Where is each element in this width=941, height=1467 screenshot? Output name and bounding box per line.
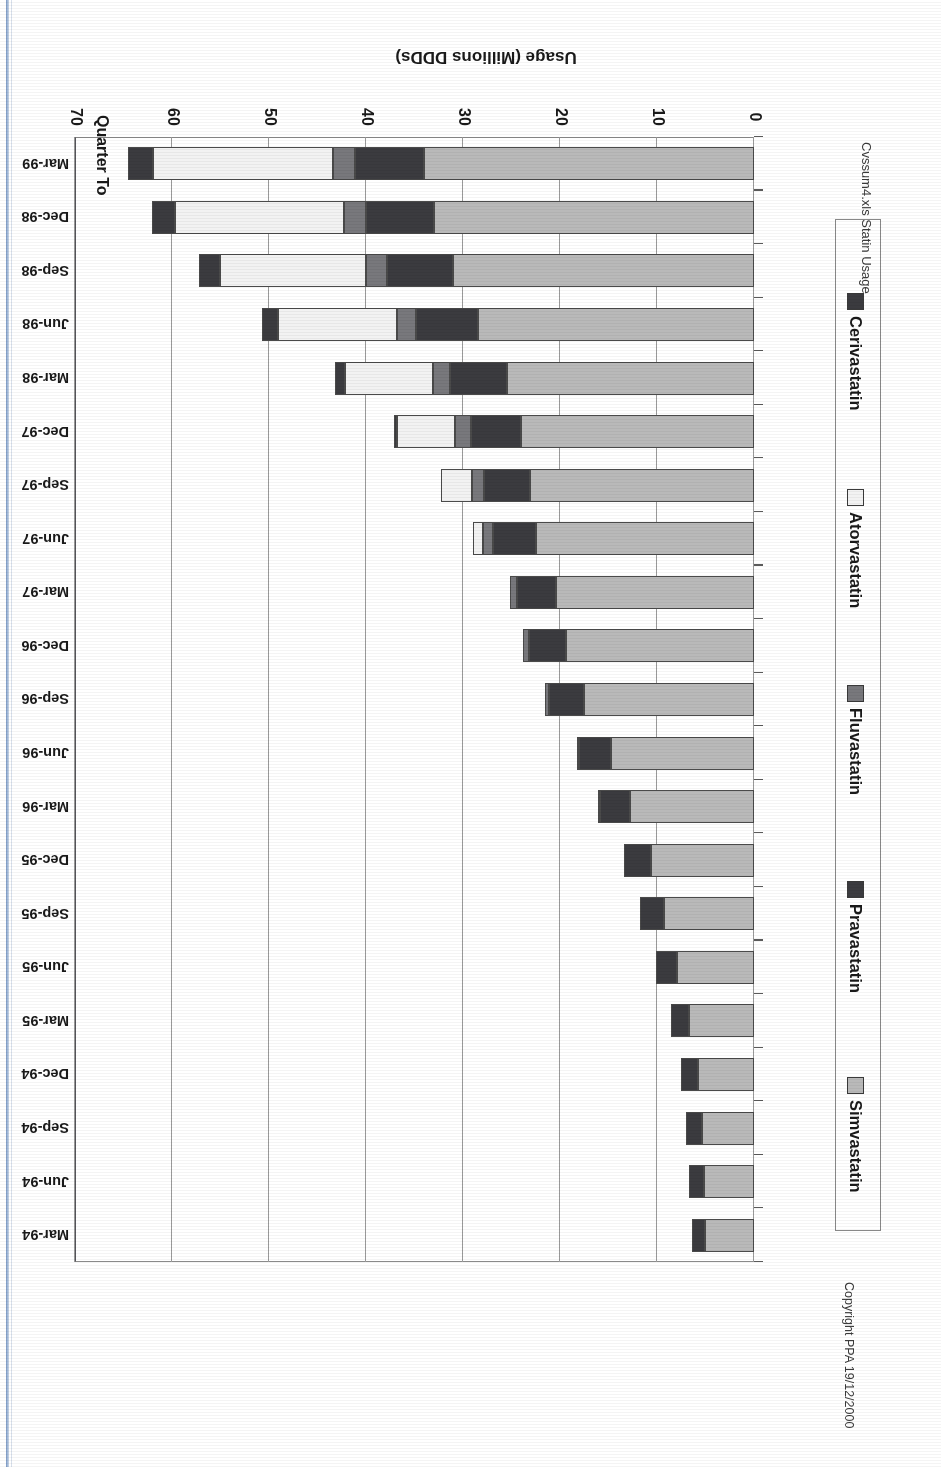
- bar-segment-fluvastatin: [545, 683, 549, 716]
- bar-segment-cerivastatin: [128, 147, 152, 180]
- bar-segment-simvastatin: [611, 737, 754, 770]
- bar-segment-pravastatin: [600, 790, 630, 823]
- legend-label: Fluvastatin: [848, 708, 865, 795]
- scanned-chart-page: Trends in Statin Usage (England) Mar-94J…: [0, 0, 941, 1467]
- bar-segment-fluvastatin: [598, 790, 600, 823]
- source-note: Cvssum4.xls Statin Usage: [859, 142, 874, 372]
- category-label: Sep-98: [0, 261, 69, 281]
- gridline: [74, 137, 75, 1262]
- bar-segment-pravastatin: [656, 951, 677, 984]
- bar-segment-fluvastatin: [455, 415, 471, 448]
- bar-segment-simvastatin: [677, 951, 754, 984]
- bar-segment-simvastatin: [704, 1165, 754, 1198]
- bar-segment-cerivastatin: [199, 254, 219, 287]
- legend-item-pravastatin: Pravastatin: [843, 881, 869, 1021]
- bar-segment-simvastatin: [536, 522, 754, 555]
- category-tick: [754, 618, 763, 619]
- category-tick: [754, 1154, 763, 1155]
- value-tick-label: 50: [261, 95, 279, 139]
- category-tick: [754, 243, 763, 244]
- bar-segment-simvastatin: [507, 362, 754, 395]
- category-tick: [754, 564, 763, 565]
- legend-swatch-icon: [848, 881, 865, 898]
- category-tick: [754, 1100, 763, 1101]
- bar-segment-cerivastatin: [152, 201, 175, 234]
- category-tick: [754, 457, 763, 458]
- bar-segment-atorvastatin: [220, 254, 366, 287]
- category-label: Jun-95: [0, 957, 69, 977]
- bar-segment-pravastatin: [686, 1112, 702, 1145]
- bar-segment-atorvastatin: [278, 308, 397, 341]
- legend-swatch-icon: [848, 489, 865, 506]
- bar-segment-simvastatin: [478, 308, 754, 341]
- value-tick-label: 60: [164, 95, 182, 139]
- bar-segment-fluvastatin: [483, 522, 493, 555]
- category-tick: [754, 993, 763, 994]
- bar-segment-cerivastatin: [394, 415, 397, 448]
- bar-segment-simvastatin: [664, 897, 754, 930]
- bar-segment-pravastatin: [689, 1165, 704, 1198]
- category-tick: [754, 404, 763, 405]
- value-tick-label: 0: [746, 95, 764, 139]
- bar-segment-atorvastatin: [473, 522, 484, 555]
- bar-segment-pravastatin: [624, 844, 651, 877]
- bar-segment-pravastatin: [450, 362, 506, 395]
- bar-segment-simvastatin: [689, 1004, 754, 1037]
- legend-label: Atorvastatin: [848, 512, 865, 608]
- bar-segment-pravastatin: [671, 1004, 689, 1037]
- bar-segment-simvastatin: [556, 576, 754, 609]
- bar-segment-pravastatin: [517, 576, 556, 609]
- bar-segment-simvastatin: [530, 469, 754, 502]
- bar-segment-simvastatin: [630, 790, 754, 823]
- bar-segment-atorvastatin: [345, 362, 433, 395]
- bar-segment-simvastatin: [434, 201, 754, 234]
- legend-item-atorvastatin: Atorvastatin: [843, 489, 869, 629]
- bar-segment-pravastatin: [692, 1219, 706, 1252]
- bar-segment-pravastatin: [416, 308, 477, 341]
- category-label: Dec-97: [0, 422, 69, 442]
- bar-segment-fluvastatin: [510, 576, 518, 609]
- category-label: Dec-94: [0, 1065, 69, 1085]
- bar-segment-fluvastatin: [523, 629, 529, 662]
- legend-label: Simvastatin: [848, 1100, 865, 1193]
- value-tick-label: 40: [358, 95, 376, 139]
- bar-segment-pravastatin: [681, 1058, 697, 1091]
- bar-segment-fluvastatin: [433, 362, 450, 395]
- category-label: Jun-97: [0, 529, 69, 549]
- bar-segment-pravastatin: [387, 254, 453, 287]
- legend-swatch-icon: [848, 1077, 865, 1094]
- chart-area: Trends in Statin Usage (England) Mar-94J…: [0, 0, 941, 1467]
- bar-segment-simvastatin: [706, 1219, 755, 1252]
- category-tick: [754, 725, 763, 726]
- bar-segment-pravastatin: [493, 522, 536, 555]
- bar-segment-fluvastatin: [577, 737, 579, 770]
- value-tick-label: 10: [649, 95, 667, 139]
- bar-segment-pravastatin: [579, 737, 611, 770]
- bar-segment-simvastatin: [702, 1112, 754, 1145]
- bar-segment-simvastatin: [566, 629, 754, 662]
- bar-segment-simvastatin: [424, 147, 754, 180]
- category-label: Jun-98: [0, 315, 69, 335]
- legend-label: Pravastatin: [848, 904, 865, 993]
- category-label: Jun-94: [0, 1172, 69, 1192]
- category-tick: [754, 672, 763, 673]
- category-label: Mar-96: [0, 797, 69, 817]
- bar-segment-fluvastatin: [366, 254, 387, 287]
- category-label: Mar-94: [0, 1225, 69, 1245]
- bar-segment-simvastatin: [698, 1058, 754, 1091]
- value-tick-label: 70: [67, 95, 85, 139]
- bar-segment-pravastatin: [471, 415, 521, 448]
- category-tick: [754, 1207, 763, 1208]
- legend-swatch-icon: [848, 685, 865, 702]
- value-tick-label: 30: [455, 95, 473, 139]
- category-tick: [754, 350, 763, 351]
- value-axis-title: Usage (Millions DDDs): [276, 47, 696, 67]
- category-label: Sep-97: [0, 475, 69, 495]
- bar-segment-atorvastatin: [397, 415, 455, 448]
- category-tick: [754, 1261, 763, 1262]
- category-label: Dec-98: [0, 207, 69, 227]
- bar-segment-atorvastatin: [153, 147, 333, 180]
- category-tick: [754, 832, 763, 833]
- bar-segment-pravastatin: [366, 201, 434, 234]
- category-label: Mar-97: [0, 582, 69, 602]
